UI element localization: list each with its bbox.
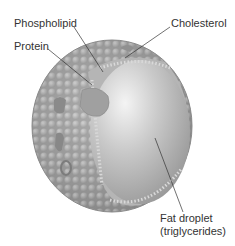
cholesterol-label: Cholesterol <box>171 17 227 30</box>
fat-droplet-label: Fat droplet (triglycerides) <box>160 212 226 238</box>
lipoprotein-illustration <box>0 0 235 246</box>
phospholipid-label: Phospholipid <box>14 17 77 30</box>
protein-label: Protein <box>14 40 49 53</box>
fat-droplet-label-line1: Fat droplet <box>160 212 226 225</box>
fat-droplet-core <box>88 58 190 206</box>
fat-droplet-label-line2: (triglycerides) <box>160 225 226 238</box>
